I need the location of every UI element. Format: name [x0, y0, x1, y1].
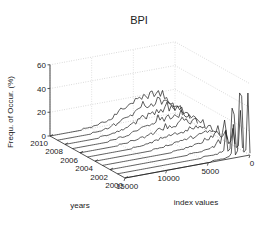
- z-tick-label: 40: [37, 85, 46, 94]
- gridline-back-z: [50, 66, 175, 89]
- ridge-line-2000: [125, 93, 250, 178]
- x-axis-ticks: 150001000050000: [116, 159, 255, 191]
- x-tick-label: 0: [250, 159, 255, 168]
- x-tick-label: 15000: [116, 182, 139, 191]
- z-axis-label: Frequ. of Occur. (%): [6, 76, 15, 148]
- gridline-right-z: [175, 42, 250, 84]
- x-tick-label: 10000: [158, 174, 181, 183]
- ridge-line-2010: [50, 90, 175, 136]
- ridge-line-2009: [58, 97, 183, 140]
- z-tick-label: 20: [37, 108, 46, 117]
- grid-lines: [50, 42, 250, 178]
- y-axis-ticks: 201020082006200420022000: [30, 139, 123, 190]
- gridline-right-z: [175, 66, 250, 108]
- z-tick-label: 60: [37, 61, 46, 70]
- gridline-back-z: [50, 42, 175, 65]
- waterfall-chart: BPI 0204060 201020082006200420022000 150…: [0, 0, 278, 225]
- ridge-line-2008: [65, 102, 190, 144]
- ridge-line-2005: [88, 125, 213, 157]
- x-tick-label: 5000: [201, 167, 219, 176]
- x-axis-label: index values: [174, 198, 218, 207]
- x-tick-mark: [124, 178, 125, 181]
- chart-title: BPI: [130, 14, 148, 26]
- z-axis-ticks: 0204060: [37, 61, 46, 141]
- figure-container: BPI 0204060 201020082006200420022000 150…: [0, 0, 278, 225]
- ridge-line-2007: [73, 110, 198, 148]
- ridge-line-2003: [103, 131, 228, 165]
- y-axis-label: years: [70, 201, 90, 210]
